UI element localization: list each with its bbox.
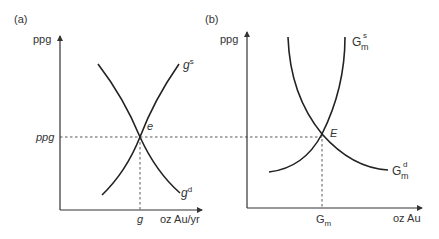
panel-b-equilibrium-label: E — [330, 127, 338, 139]
panel-b-supply-label: Gsm — [352, 31, 369, 52]
panel-a-quantity-label: g — [137, 213, 144, 225]
panel-a-demand-curve — [98, 64, 180, 193]
panel-a-price-level-label: ppg — [35, 131, 55, 143]
panel-b-demand-curve — [288, 37, 388, 170]
panel-b-x-axis-label: oz Au — [393, 212, 421, 224]
panel-a-demand-label: gd — [181, 185, 192, 200]
panel-b-demand-label: Gdm — [392, 160, 409, 181]
panel-a-y-axis-label: ppg — [33, 33, 51, 45]
panel-b: (b) ppg Gsm Gdm E Gm oz Au — [205, 13, 422, 228]
panel-a: (a) ppg gs gd e ppg g oz Au/yr — [14, 13, 322, 225]
supply-demand-diagram: (a) ppg gs gd e ppg g oz Au/yr (b) ppg — [0, 0, 439, 239]
panel-b-supply-curve — [269, 37, 345, 172]
panel-b-y-axis-label: ppg — [220, 33, 238, 45]
panel-a-supply-label: gs — [183, 57, 194, 72]
panel-a-supply-curve — [102, 64, 179, 195]
panel-a-equilibrium-label: e — [147, 120, 153, 132]
panel-b-quantity-label: Gm — [316, 213, 332, 228]
panel-b-label: (b) — [205, 13, 218, 25]
panel-a-x-axis-label: oz Au/yr — [160, 213, 200, 225]
panel-a-label: (a) — [14, 13, 27, 25]
